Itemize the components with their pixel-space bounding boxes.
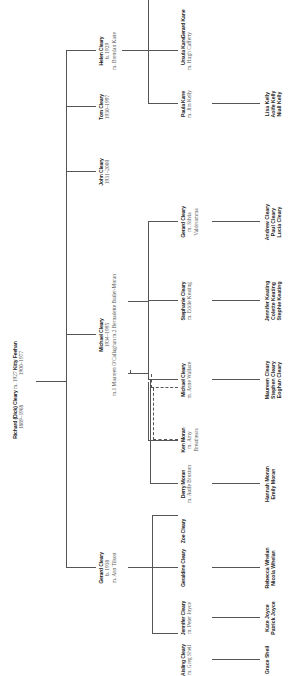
connector	[122, 50, 148, 51]
connector	[148, 300, 178, 301]
great-grandchildren-group: Jennifer KeatingColette KeatingStephie K…	[264, 281, 283, 322]
grandchild-node: Stephanie Clearym. Eddie Keating	[180, 282, 193, 321]
connector	[150, 483, 178, 484]
connector	[66, 567, 96, 568]
grandchild-node: Gerard Clearym. SilviaValderamma	[180, 206, 199, 238]
connector	[152, 515, 178, 516]
great-grandchildren-group: Grace Sheil	[264, 646, 270, 675]
great-grandchildren-group: Kate JoycePatrick Joyce	[264, 601, 276, 634]
connector	[66, 106, 96, 107]
connector	[212, 617, 260, 618]
grandchild-node: Geraldine Cleary	[180, 549, 186, 587]
connector	[212, 300, 260, 301]
connector	[66, 50, 67, 568]
grandchild-node: Aisling Clearym. Greg Sheil	[180, 644, 193, 676]
connector	[148, 221, 178, 222]
dashed-connector	[151, 387, 178, 388]
great-grandchildren-group: Hannah MoranEmily Moran	[264, 466, 276, 502]
connector	[66, 171, 96, 172]
connector	[152, 567, 178, 568]
root-couple: Richard (Dick) Cleary m. 1927 Kitty Feeh…	[12, 341, 25, 438]
child-node: Tom Cleary1930–1997	[98, 94, 111, 120]
great-grandchildren-group: Maureen ClearyStephen ClearyEoghan Clear…	[264, 361, 283, 400]
connector	[148, 222, 149, 380]
connector	[130, 370, 131, 374]
connector	[148, 382, 149, 441]
grandchild-node: Ken Moranm. AmyBreathears	[180, 427, 199, 452]
connector	[152, 516, 153, 634]
connector	[148, 379, 178, 380]
child-node: John Cleary1931–2000	[98, 158, 111, 186]
grandchild-node: Derry Moranm. Aoife Broxton	[180, 465, 193, 503]
child-node: Gerard Clearyb. 1938m. Ann Tilson	[98, 552, 117, 584]
grandchild-node: Zoe Cleary	[180, 519, 186, 544]
connector	[212, 379, 260, 380]
connector	[152, 633, 178, 634]
connector	[66, 50, 96, 51]
child-node: Michael Cleary1934–1995m.1 Maureen O'Cal…	[98, 274, 117, 396]
grandchild-node: Jennifer Clearym. Peter Joyce	[180, 601, 193, 635]
great-grandchildren-group: Rebecca WhelanNicola Whelan	[264, 547, 276, 588]
great-grandchildren-group: Lisa KellyAoife KellyNiall Kelly	[264, 91, 283, 118]
great-grandchildren-group: Andrew ClearyPaul ClearyLucia Cleary	[264, 204, 283, 240]
connector	[212, 567, 260, 568]
connector	[148, 103, 178, 104]
dashed-connector	[151, 374, 152, 388]
connector	[128, 373, 148, 374]
connector	[148, 0, 149, 104]
connector	[148, 50, 178, 51]
connector	[212, 103, 260, 104]
connector	[148, 440, 178, 441]
grandchild-node: Ursula Kanem. Hugh Cafferty	[180, 32, 193, 70]
grandchild-node: Paula Kanem. Jim Kelly	[180, 90, 193, 118]
connector	[212, 221, 260, 222]
dashed-connector	[153, 439, 178, 440]
child-node: Helen Clearyb. 1929m. Brendan Kane	[98, 32, 117, 70]
dashed-connector	[153, 388, 154, 440]
connector	[36, 381, 66, 382]
grandchild-node: Michael Clearym. Anne Wallace	[180, 362, 193, 399]
connector	[128, 567, 152, 568]
connector	[212, 483, 260, 484]
connector	[150, 380, 151, 484]
connector	[212, 659, 260, 660]
connector	[128, 301, 148, 302]
connector	[66, 334, 96, 335]
